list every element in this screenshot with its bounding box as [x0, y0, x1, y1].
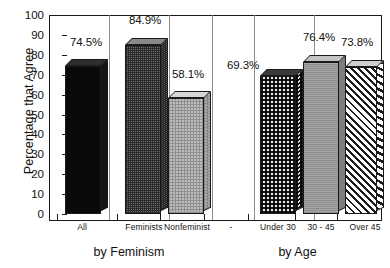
x-axis-tick-label: Over 45 — [335, 222, 390, 232]
bar-value-label: 69.3% — [227, 59, 259, 71]
bar-value-label: 84.9% — [129, 14, 161, 26]
y-axis-tick-labels: 1009080706050403020100 — [18, 0, 44, 268]
bar[interactable] — [303, 62, 339, 214]
y-axis-tick-label: 0 — [38, 209, 44, 219]
x-axis-tick-labels: AllFeministsNonfeminist-Under 3030 - 45O… — [49, 222, 382, 238]
bar-top-face — [260, 69, 303, 76]
bar[interactable] — [125, 45, 161, 214]
bar-value-label: 58.1% — [172, 68, 204, 80]
bar-front-face — [345, 67, 377, 214]
bar-front-face — [65, 66, 101, 214]
bar-top-face — [65, 59, 108, 66]
x-axis-tick-mark — [204, 214, 205, 221]
bar-chart: Percentage that Agree 100908070605040302… — [0, 0, 390, 268]
bar-side-face — [204, 92, 211, 211]
y-axis-tick-label: 40 — [31, 129, 44, 139]
bar-group — [303, 15, 339, 221]
plot-left-border — [49, 15, 50, 221]
x-axis-tick-mark — [295, 214, 296, 221]
bar-front-face — [260, 76, 296, 214]
panel-separator — [212, 15, 213, 221]
y-axis-tick-label: 50 — [31, 110, 44, 120]
x-axis-tick-mark — [248, 214, 249, 221]
bar-front-face — [168, 98, 204, 214]
x-axis-tick-mark — [160, 214, 161, 221]
x-axis-tick-label: All — [52, 222, 112, 232]
y-axis-tick-label: 100 — [25, 10, 44, 20]
bar-side-face — [377, 61, 384, 211]
bar[interactable] — [65, 66, 101, 214]
bar-value-label: 73.8% — [341, 36, 373, 48]
y-axis-tick-label: 80 — [31, 50, 44, 60]
bar-group — [168, 15, 204, 221]
panel-separator — [109, 15, 110, 221]
bar-group — [260, 15, 296, 221]
plot-area: 74.5%84.9%58.1%69.3%76.4%73.8% — [49, 15, 382, 221]
bar-front-face — [303, 62, 339, 214]
y-axis-tick-label: 90 — [31, 30, 44, 40]
bar-side-face — [161, 39, 168, 211]
y-axis-tick-label: 20 — [31, 169, 44, 179]
y-axis-tick-label: 60 — [31, 90, 44, 100]
y-axis-tick-label: 70 — [31, 70, 44, 80]
bar[interactable] — [260, 76, 296, 214]
x-axis-tick-mark — [57, 214, 58, 221]
bar[interactable] — [345, 67, 377, 214]
bar-value-label: 74.5% — [70, 36, 102, 48]
bar[interactable] — [168, 98, 204, 214]
bar-front-face — [125, 45, 161, 214]
group-title-feminism: by Feminism — [49, 245, 209, 259]
bar-group — [125, 15, 161, 221]
y-axis-tick-label: 10 — [31, 189, 44, 199]
panel-separator — [254, 15, 255, 221]
x-axis-tick-mark — [337, 214, 338, 221]
x-axis-tick-mark — [117, 214, 118, 221]
bar-top-face — [125, 38, 168, 45]
bar-side-face — [101, 59, 108, 211]
bar-side-face — [296, 70, 303, 211]
y-axis-tick-label: 30 — [31, 149, 44, 159]
bar-value-label: 76.4% — [303, 31, 335, 43]
x-axis-baseline — [49, 220, 382, 221]
group-title-age: by Age — [215, 245, 380, 259]
bar-top-face — [168, 91, 211, 98]
bar-top-face — [303, 55, 346, 62]
